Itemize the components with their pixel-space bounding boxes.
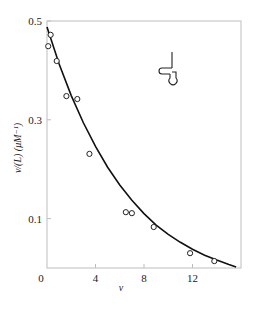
x-axis-label: ν <box>119 282 124 293</box>
data-point <box>64 93 69 98</box>
x-tick-label: 0 <box>38 272 44 284</box>
y-axis-label: ν/(L) (μM⁻¹) <box>12 122 24 173</box>
data-points <box>46 32 217 263</box>
scatchard-plot: 048120.10.30.5 ν ν/(L) (μM⁻¹) <box>0 0 254 309</box>
plot-frame <box>47 21 241 268</box>
data-point <box>46 44 51 49</box>
x-tick-label: 8 <box>141 272 147 284</box>
y-tick-label: 0.3 <box>28 114 42 126</box>
y-tick-label: 0.1 <box>28 213 42 225</box>
data-point <box>123 210 128 215</box>
x-tick-label: 12 <box>187 272 198 284</box>
data-point <box>151 224 156 229</box>
data-point <box>129 211 134 216</box>
data-point <box>212 258 217 263</box>
data-point <box>48 32 53 37</box>
fitted-curve <box>47 27 236 267</box>
data-point <box>87 151 92 156</box>
data-point <box>187 251 192 256</box>
axis-ticks <box>47 21 193 268</box>
y-tick-label: 0.5 <box>28 15 42 27</box>
data-point <box>54 58 59 63</box>
structure-inset-icon <box>159 52 177 85</box>
data-point <box>75 96 80 101</box>
x-tick-label: 4 <box>93 272 99 284</box>
